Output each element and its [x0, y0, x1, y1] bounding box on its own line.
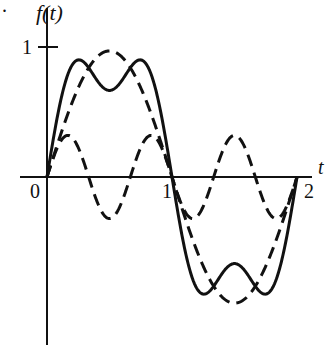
- corner-mark: .: [2, 0, 7, 17]
- y-tick-label: 1: [22, 36, 32, 59]
- y-axis-label: f(t): [36, 0, 63, 26]
- x-tick-label-1: 1: [162, 180, 172, 203]
- chart-plot-area: [0, 0, 332, 351]
- x-tick-label-2: 2: [304, 180, 314, 203]
- x-axis-label: t: [318, 156, 324, 179]
- x-tick-label-0: 0: [30, 180, 40, 203]
